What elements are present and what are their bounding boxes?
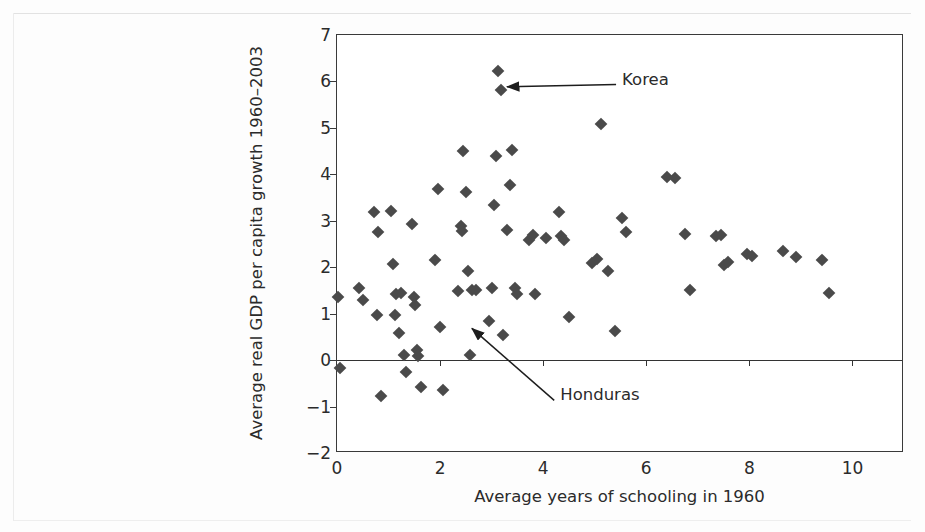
zero-reference-line	[337, 360, 902, 361]
data-point	[388, 308, 401, 321]
zero-line-tick	[852, 360, 853, 366]
y-tick-mark	[330, 267, 337, 268]
y-tick-label: 7	[320, 25, 331, 45]
x-tick-label: 0	[332, 458, 343, 478]
data-point	[352, 282, 365, 295]
data-point	[489, 149, 502, 162]
data-point	[615, 212, 628, 225]
y-tick-label: 2	[320, 257, 331, 277]
data-point	[789, 251, 802, 264]
data-point	[485, 282, 498, 295]
x-axis-label: Average years of schooling in 1960	[336, 487, 903, 506]
data-point	[539, 232, 552, 245]
data-point	[563, 311, 576, 324]
y-tick-mark	[330, 221, 337, 222]
data-point	[333, 361, 346, 374]
data-point	[452, 285, 465, 298]
data-point	[392, 327, 405, 340]
data-point	[356, 293, 369, 306]
figure-page: −2−101234567 0246810 Average real GDP pe…	[0, 0, 925, 532]
y-tick-label: 6	[320, 71, 331, 91]
y-tick-label: 3	[320, 211, 331, 231]
data-point	[679, 227, 692, 240]
y-tick-label: 0	[320, 350, 331, 370]
x-tick-label: 10	[842, 458, 864, 478]
zero-line-tick	[543, 360, 544, 366]
y-tick-label: 1	[320, 304, 331, 324]
data-point	[815, 254, 828, 267]
y-tick-mark	[330, 174, 337, 175]
data-point	[619, 226, 632, 239]
data-point	[436, 384, 449, 397]
y-tick-label: 5	[320, 118, 331, 138]
data-point	[491, 65, 504, 78]
data-point	[823, 286, 836, 299]
y-axis-label: Average real GDP per capita growth 1960–…	[245, 34, 267, 452]
y-tick-mark	[330, 314, 337, 315]
data-point	[386, 257, 399, 270]
data-point	[434, 320, 447, 333]
y-tick-label: −1	[306, 397, 331, 417]
data-point	[595, 118, 608, 131]
data-point	[371, 308, 384, 321]
data-point	[684, 284, 697, 297]
scatter-chart: −2−101234567 0246810 Average real GDP pe…	[0, 0, 925, 532]
x-tick-label: 4	[538, 458, 549, 478]
data-point	[609, 325, 622, 338]
y-tick-mark	[330, 128, 337, 129]
data-point	[506, 144, 519, 157]
data-point	[497, 328, 510, 341]
data-point	[374, 390, 387, 403]
data-point	[414, 381, 427, 394]
data-point	[529, 288, 542, 301]
data-point	[488, 198, 501, 211]
annotation-label-korea: Korea	[622, 70, 669, 89]
y-tick-label: −2	[306, 443, 331, 463]
annotation-label-honduras: Honduras	[560, 385, 639, 404]
y-tick-label: 4	[320, 164, 331, 184]
y-tick-mark	[330, 407, 337, 408]
data-point	[552, 206, 565, 219]
data-point	[409, 299, 422, 312]
data-point	[601, 265, 614, 278]
data-point	[501, 224, 514, 237]
data-point	[503, 178, 516, 191]
data-point	[483, 314, 496, 327]
data-point	[459, 186, 472, 199]
x-tick-label: 8	[744, 458, 755, 478]
zero-line-tick	[749, 360, 750, 366]
zero-line-tick	[646, 360, 647, 366]
data-point	[457, 145, 470, 158]
data-point	[399, 365, 412, 378]
data-point	[776, 245, 789, 258]
data-point	[429, 254, 442, 267]
data-point	[385, 205, 398, 218]
x-tick-label: 6	[641, 458, 652, 478]
data-point	[332, 291, 345, 304]
y-tick-mark	[330, 81, 337, 82]
data-point	[398, 348, 411, 361]
data-point	[431, 183, 444, 196]
zero-line-tick	[440, 360, 441, 366]
data-point	[495, 83, 508, 96]
x-tick-label: 2	[435, 458, 446, 478]
data-point	[405, 218, 418, 231]
data-point	[462, 265, 475, 278]
y-tick-mark	[330, 360, 337, 361]
data-point	[372, 226, 385, 239]
data-point	[368, 206, 381, 219]
